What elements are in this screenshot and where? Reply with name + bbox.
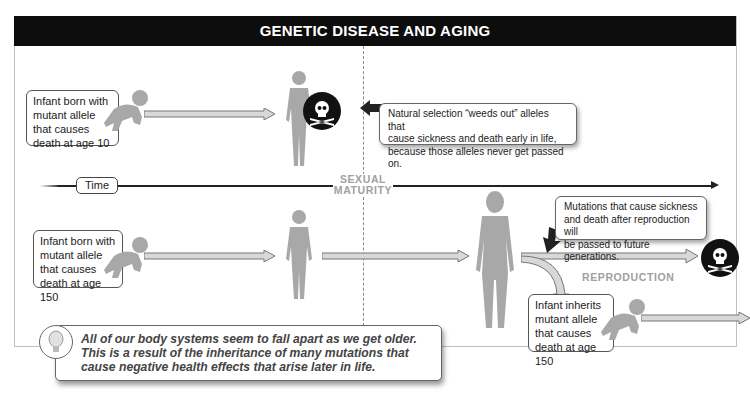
arrow-infant-to-child (144, 108, 276, 120)
text-line: MATURITY (333, 185, 393, 196)
text-line: death at age 10 (33, 136, 112, 150)
adult-woman-icon (472, 190, 518, 330)
skull-crossbones-icon (701, 239, 739, 277)
diagram-title: GENETIC DISEASE AND AGING (14, 16, 736, 46)
arrow-infant-to-child (144, 250, 276, 262)
text-line: All of our body systems seem to fall apa… (81, 332, 431, 346)
text-line: mutant allele (33, 108, 112, 122)
text-line: cause negative health effects that arise… (81, 360, 431, 374)
text-line: and death after reproduction will (564, 214, 698, 239)
text-line: that causes (33, 122, 112, 136)
skull-crossbones-icon (303, 92, 341, 130)
reproduction-label: REPRODUCTION (582, 271, 674, 283)
text-line: cause sickness and death early in life, (388, 133, 568, 146)
text-line: that causes (535, 326, 607, 340)
text-line: Natural selection “weeds out” alleles th… (388, 108, 568, 133)
text-line: Infant inherits (535, 298, 607, 312)
timeline-arrowhead (711, 181, 719, 189)
text-line: This is a result of the inheritance of m… (81, 346, 431, 360)
arrow-child-to-adult (322, 250, 470, 262)
text-line: Mutations that cause sickness (564, 201, 698, 214)
summary-tip-callout: All of our body systems seem to fall apa… (55, 325, 442, 381)
sexual-maturity-label: SEXUAL MATURITY (333, 174, 393, 196)
text-line: death at age 150 (535, 340, 607, 368)
text-line: Infant born with (33, 94, 112, 108)
time-label: Time (76, 177, 118, 194)
crawling-infant-icon (601, 296, 645, 346)
text-line: because those alleles never get passed o… (388, 146, 568, 171)
timeline-fade (40, 185, 60, 187)
arrow-offspring-continues (641, 312, 750, 324)
child-figure-icon (282, 209, 316, 303)
mutations-passed-callout: Mutations that cause sickness and death … (555, 196, 707, 240)
text-line: be passed to future generations. (564, 239, 698, 264)
natural-selection-callout: Natural selection “weeds out” alleles th… (379, 103, 577, 145)
text-line: mutant allele (535, 312, 607, 326)
crawling-infant-icon (104, 234, 148, 290)
crawling-infant-icon (104, 87, 148, 143)
lightbulb-icon (39, 325, 73, 359)
